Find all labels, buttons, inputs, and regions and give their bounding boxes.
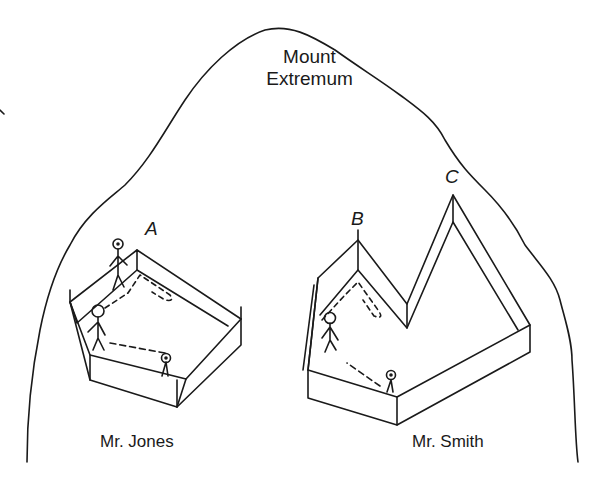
title-line-2: Extremum — [20, 68, 599, 90]
owner-jones-label: Mr. Jones — [100, 432, 174, 452]
mountain-title: Mount Extremum — [0, 46, 599, 90]
jones-pen — [70, 239, 241, 407]
owner-smith-label: Mr. Smith — [412, 432, 484, 452]
point-a-label: A — [145, 218, 158, 240]
title-line-1: Mount — [20, 46, 599, 68]
point-b-label: B — [351, 208, 364, 230]
point-c-label: C — [445, 166, 459, 188]
smith-pen — [303, 195, 530, 425]
mountain-outline — [27, 28, 578, 462]
